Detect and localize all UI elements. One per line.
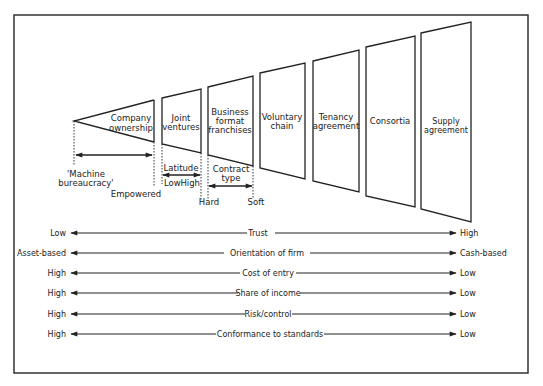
latitude-label: Latitude bbox=[164, 163, 199, 173]
form-label: chain bbox=[270, 121, 293, 131]
scale-left-label: High bbox=[48, 289, 66, 298]
scale-name: Risk/control bbox=[244, 310, 291, 319]
apex-label: bureaucracy' bbox=[58, 178, 113, 188]
contract-hard: Hard bbox=[199, 197, 219, 207]
scale-left-label: High bbox=[48, 269, 66, 278]
scale-right-label: High bbox=[460, 229, 478, 238]
scale-orientation-of-firm: Asset-based Orientation of firm Cash-bas… bbox=[17, 249, 507, 258]
form-business-format-franchises: Business format franchises bbox=[208, 76, 253, 166]
form-label: agreement bbox=[313, 121, 360, 131]
form-label: Supply bbox=[432, 117, 460, 126]
latitude-low: Low bbox=[164, 178, 181, 188]
scale-name: Share of income bbox=[235, 289, 300, 298]
form-voluntary-chain: Voluntary chain bbox=[260, 63, 305, 179]
scale-name: Orientation of firm bbox=[230, 249, 304, 258]
form-label: ventures bbox=[162, 122, 200, 132]
scale-left-label: High bbox=[48, 310, 66, 319]
form-label: Company bbox=[111, 113, 151, 123]
latitude-arrow: Latitude Low High bbox=[163, 163, 200, 188]
scale-right-label: Low bbox=[460, 289, 476, 298]
retail-organisation-forms-diagram: Company ownership Joint ventures Busines… bbox=[0, 0, 543, 386]
form-supply-agreement: Supply agreement bbox=[421, 22, 471, 222]
form-consortia: Consortia bbox=[366, 36, 415, 207]
contract-type-arrow: Contract type Hard Soft bbox=[199, 164, 265, 207]
diagram-frame bbox=[14, 15, 528, 373]
contract-soft: Soft bbox=[248, 197, 265, 207]
scale-name: Trust bbox=[247, 229, 267, 238]
form-company-ownership: Company ownership bbox=[74, 100, 154, 142]
scale-left-label: Low bbox=[50, 229, 66, 238]
scale-right-label: Low bbox=[460, 310, 476, 319]
scale-cost-of-entry: High Cost of entry Low bbox=[48, 269, 477, 278]
form-tenancy-agreement: Tenancy agreement bbox=[313, 50, 360, 192]
scale-right-label: Low bbox=[460, 330, 476, 339]
scale-share-of-income: High Share of income Low bbox=[48, 289, 477, 298]
scale-trust: Low Trust High bbox=[50, 229, 478, 238]
scale-name: Cost of entry bbox=[242, 269, 294, 278]
latitude-high: High bbox=[180, 178, 200, 188]
scale-risk-control: High Risk/control Low bbox=[48, 310, 477, 319]
scale-right-label: Cash-based bbox=[460, 249, 507, 258]
scale-conformance-to-standards: High Conformance to standards Low bbox=[48, 330, 477, 339]
contract-type-label: type bbox=[222, 173, 241, 183]
scale-left-label: Asset-based bbox=[17, 249, 66, 258]
scale-left-label: High bbox=[48, 330, 66, 339]
form-label: agreement bbox=[424, 126, 468, 135]
empowered-label: Empowered bbox=[111, 189, 161, 199]
control-span-arrow: 'Machine bureaucracy' Empowered bbox=[58, 155, 161, 199]
scale-name: Conformance to standards bbox=[217, 330, 323, 339]
form-label: franchises bbox=[208, 125, 252, 135]
form-label: ownership bbox=[109, 123, 153, 133]
form-joint-ventures: Joint ventures bbox=[162, 89, 201, 153]
form-label: Consortia bbox=[370, 116, 411, 126]
scale-right-label: Low bbox=[460, 269, 476, 278]
